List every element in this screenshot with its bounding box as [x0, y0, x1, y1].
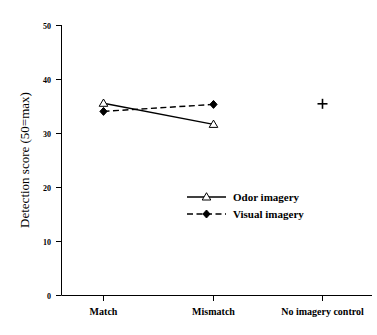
legend-label-odor-imagery: Odor imagery — [233, 191, 300, 203]
chart-figure: 0 10 20 30 40 50 Detection score (50=max… — [0, 0, 377, 335]
x-tick-label-no-imagery-control: No imagery control — [281, 306, 364, 317]
y-tick-label-50: 50 — [43, 22, 51, 31]
chart-background — [0, 0, 377, 335]
y-tick-label-20: 20 — [43, 184, 51, 193]
y-tick-label-40: 40 — [43, 76, 51, 85]
x-tick-label-mismatch: Mismatch — [192, 306, 235, 317]
y-tick-label-10: 10 — [43, 238, 51, 247]
y-tick-label-30: 30 — [43, 130, 51, 139]
line-chart: 0 10 20 30 40 50 Detection score (50=max… — [0, 0, 377, 335]
y-axis-title: Detection score (50=max) — [17, 92, 32, 228]
legend-label-visual-imagery: Visual imagery — [233, 208, 304, 220]
x-tick-label-match: Match — [90, 306, 118, 317]
y-tick-label-0: 0 — [47, 292, 51, 301]
